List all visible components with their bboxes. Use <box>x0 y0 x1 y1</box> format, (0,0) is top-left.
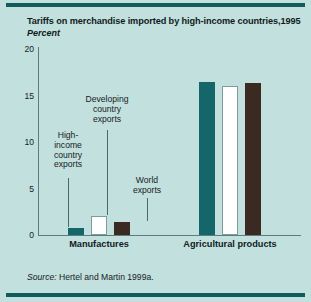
plot-area: 05101520 ManufacturesAgricultural produc… <box>0 0 311 302</box>
annotation-leader-line <box>107 130 108 215</box>
series-annotation: Developing country exports <box>86 95 129 124</box>
bar <box>91 216 107 235</box>
group-label: Agricultural products <box>183 239 276 249</box>
source-label: Source: <box>27 272 57 282</box>
bar <box>245 83 261 235</box>
series-annotation: World exports <box>133 176 161 196</box>
source-note: Source: Hertel and Martin 1999a. <box>27 272 154 282</box>
bar <box>222 86 238 235</box>
bar <box>199 82 215 235</box>
annotation-leader-line <box>68 178 69 227</box>
source-citation: Hertel and Martin 1999a. <box>57 272 154 282</box>
group-label: Manufactures <box>69 239 129 249</box>
annotation-leader-line <box>147 198 148 221</box>
chart-figure: Tariffs on merchandise imported by high-… <box>0 0 311 302</box>
series-annotation: High- income country exports <box>54 131 82 170</box>
bars-layer <box>0 0 311 236</box>
bar <box>68 228 84 235</box>
bar <box>114 222 130 235</box>
